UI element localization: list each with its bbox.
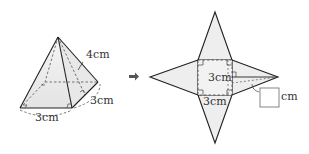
net-left-side-label: 3cm bbox=[208, 71, 232, 84]
square-pyramid: 4cm 3cm 3cm bbox=[20, 37, 114, 124]
right-arrow-icon bbox=[129, 73, 139, 81]
bottom-side-label: 3cm bbox=[35, 111, 59, 124]
net-left-triangle bbox=[150, 60, 198, 95]
slant-height-label: 4cm bbox=[86, 48, 110, 61]
pyramid-net-diagram: 4cm 3cm 3cm 3cm 3cm bbox=[0, 0, 309, 154]
answer-unit-label: cm bbox=[281, 90, 298, 103]
pyramid-net: 3cm 3cm cm bbox=[150, 12, 298, 143]
answer-box[interactable] bbox=[260, 88, 279, 107]
net-top-triangle bbox=[198, 12, 232, 60]
right-side-label: 3cm bbox=[90, 94, 114, 107]
net-bottom-side-label: 3cm bbox=[203, 95, 227, 108]
